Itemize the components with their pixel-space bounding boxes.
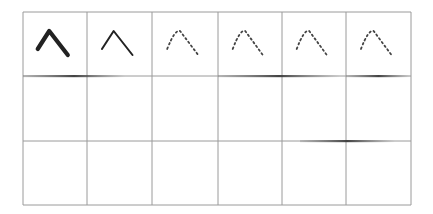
caret-stroke-icon	[167, 31, 198, 55]
smudge-marks	[23, 75, 411, 142]
smudge-mark	[300, 140, 395, 142]
smudge-mark	[346, 75, 411, 77]
smudge-mark	[23, 75, 125, 77]
grid-lines	[23, 12, 411, 205]
caret-stroke-icon	[102, 31, 133, 55]
stroke-samples	[38, 31, 392, 55]
stroke-practice-grid	[0, 0, 433, 214]
caret-stroke-icon	[297, 31, 327, 55]
caret-stroke-icon	[361, 31, 392, 55]
caret-stroke-icon	[38, 31, 68, 55]
smudge-mark	[218, 75, 340, 77]
caret-stroke-icon	[233, 31, 263, 55]
